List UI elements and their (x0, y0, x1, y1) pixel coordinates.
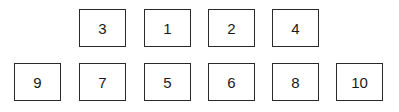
number-box-8: 8 (272, 63, 319, 101)
box-label: 8 (291, 74, 299, 91)
box-label: 5 (163, 74, 171, 91)
box-label: 6 (227, 74, 235, 91)
number-box-2: 2 (208, 9, 255, 47)
box-label: 1 (163, 20, 171, 37)
number-box-7: 7 (79, 63, 126, 101)
box-label: 2 (227, 20, 235, 37)
number-box-9: 9 (14, 63, 61, 101)
number-box-5: 5 (144, 63, 191, 101)
number-box-6: 6 (208, 63, 255, 101)
number-box-4: 4 (272, 9, 319, 47)
box-label: 3 (98, 20, 106, 37)
number-box-1: 1 (144, 9, 191, 47)
box-label: 9 (33, 74, 41, 91)
box-label: 4 (291, 20, 299, 37)
box-label: 7 (98, 74, 106, 91)
box-label: 10 (351, 74, 368, 91)
number-box-3: 3 (79, 9, 126, 47)
number-box-10: 10 (336, 63, 383, 101)
